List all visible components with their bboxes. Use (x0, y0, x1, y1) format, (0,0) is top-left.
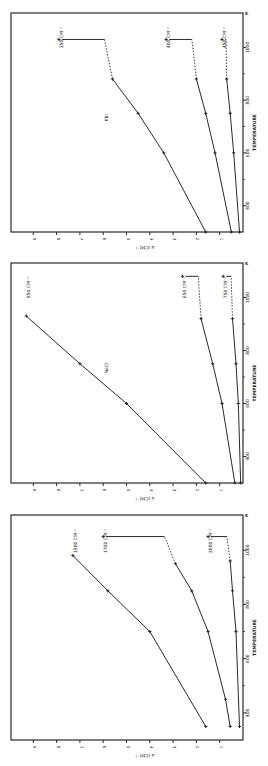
series-line (201, 319, 235, 483)
data-point-marker (206, 630, 209, 633)
series-dashed-extension (198, 276, 201, 318)
alpha-tick-label: 4 (149, 746, 154, 749)
temperature-tick-label: 1000 (245, 42, 250, 54)
series-line (113, 79, 206, 232)
temperature-axis-label: TEMPERATURE (252, 114, 257, 151)
temperature-tick-label: 800 (245, 600, 250, 609)
temperature-axis-label: TEMPERATURE (252, 619, 257, 656)
temperature-tick-label: 600 (245, 399, 250, 408)
series-dashed-extension (192, 39, 197, 79)
series-line (196, 79, 231, 232)
alpha-tick-label: 9 (32, 489, 37, 492)
temperature-tick-label: 1000 (245, 544, 250, 556)
series-label: 2000 CM⁻¹ (208, 529, 213, 553)
alpha-tick-label: 3 (172, 238, 177, 241)
alpha-tick-label: 6 (102, 746, 107, 749)
data-point-marker (239, 481, 242, 484)
alpha-tick-label: 5 (126, 746, 131, 749)
alpha-tick-label: 1 (219, 238, 224, 241)
data-point-marker (225, 77, 228, 80)
alpha-tick-label: 6 (102, 238, 107, 241)
alpha-tick-label: 9 (32, 746, 37, 749)
series-line (230, 561, 239, 726)
kelvin-unit-mark: K (245, 261, 249, 266)
alpha-tick-label: 8 (56, 746, 61, 749)
series-label: 1500 CM⁻¹ (73, 529, 78, 553)
alpha-axis-label: α (CM)⁻¹ (135, 496, 154, 501)
alpha-tick-label: 2 (195, 238, 200, 241)
alpha-tick-label: 7 (79, 746, 84, 749)
data-point-marker (234, 362, 237, 365)
material-label: KBr (104, 113, 109, 121)
data-point-marker (234, 630, 237, 633)
temperature-tick-label: 400 (245, 201, 250, 210)
alpha-tick-label: 4 (149, 238, 154, 241)
alpha-tick-label: 2 (195, 746, 200, 749)
temperature-tick-label: 1000 (245, 292, 250, 304)
series-dashed-extension (165, 537, 176, 564)
temperature-tick-label: 600 (245, 654, 250, 663)
series-label: 450 CM⁻¹ (222, 27, 227, 48)
series-label: 650 CM⁻¹ (182, 277, 187, 298)
alpha-tick-label: 6 (102, 489, 107, 492)
data-point-marker (224, 698, 227, 701)
series-label: 750 CM⁻¹ (223, 277, 228, 298)
temperature-axis-label: TEMPERATURE (252, 365, 257, 402)
series-label: 550 CM⁻¹ (26, 277, 31, 298)
data-point-marker (237, 402, 240, 405)
alpha-tick-label: 5 (126, 489, 131, 492)
alpha-axis-label: α (CM)⁻¹ (135, 753, 154, 758)
alpha-tick-label: 3 (172, 746, 177, 749)
series-label: 1700 CM⁻¹ (103, 529, 108, 553)
temperature-tick-label: 400 (245, 708, 250, 717)
alpha-tick-label: 7 (79, 238, 84, 241)
alpha-tick-label: 2 (195, 489, 200, 492)
temperature-tick-label: 800 (245, 96, 250, 105)
series-dashed-extension (231, 276, 232, 318)
alpha-tick-label: 9 (32, 238, 37, 241)
temperature-tick-label: 400 (245, 452, 250, 461)
alpha-tick-label: 8 (56, 489, 61, 492)
data-point-marker (195, 77, 198, 80)
alpha-tick-label: 4 (149, 489, 154, 492)
temperature-tick-label: 800 (245, 346, 250, 355)
data-point-marker (238, 725, 241, 728)
data-point-marker (230, 230, 233, 233)
alpha-tick-label: 1 (219, 746, 224, 749)
data-point-marker (229, 559, 232, 562)
series-line (233, 319, 241, 483)
series-label: 350 CM⁻¹ (59, 27, 64, 48)
series-line (227, 79, 240, 232)
data-point-marker (229, 112, 232, 115)
chart-panel-panel-3: 123456789α (CM)⁻¹4006008001000TEMPERATUR… (11, 513, 257, 758)
chart-panel-nacl: 123456789α (CM)⁻¹4006008001000TEMPERATUR… (11, 261, 257, 501)
series-label: 400 CM⁻¹ (166, 27, 171, 48)
data-point-marker (238, 230, 241, 233)
series-dashed-extension (104, 39, 112, 79)
series-line (175, 564, 230, 727)
data-point-marker (199, 317, 202, 320)
data-point-marker (229, 725, 232, 728)
data-point-marker (211, 362, 214, 365)
data-point-marker (220, 402, 223, 405)
data-point-marker (231, 589, 234, 592)
data-point-marker (231, 317, 234, 320)
kelvin-unit-mark: K (245, 513, 249, 518)
plot-frame (11, 263, 243, 483)
alpha-tick-label: 5 (126, 238, 131, 241)
series-dashed-extension (227, 537, 230, 561)
data-point-marker (204, 112, 207, 115)
alpha-tick-label: 8 (56, 238, 61, 241)
series-line (26, 316, 205, 483)
alpha-tick-label: 7 (79, 489, 84, 492)
alpha-tick-label: 3 (172, 489, 177, 492)
absorption-vs-temperature-figure: 123456789α (CM)⁻¹4006008001000TEMPERATUR… (0, 0, 268, 766)
alpha-axis-label: α (CM)⁻¹ (135, 245, 154, 250)
kelvin-unit-mark: K (245, 11, 249, 16)
figure: 123456789α (CM)⁻¹4006008001000TEMPERATUR… (0, 0, 268, 766)
data-point-marker (233, 481, 236, 484)
chart-panel-kbr: 123456789α (CM)⁻¹4006008001000TEMPERATUR… (11, 11, 257, 250)
alpha-tick-label: 1 (219, 489, 224, 492)
temperature-tick-label: 600 (245, 148, 250, 157)
data-point-marker (232, 151, 235, 154)
